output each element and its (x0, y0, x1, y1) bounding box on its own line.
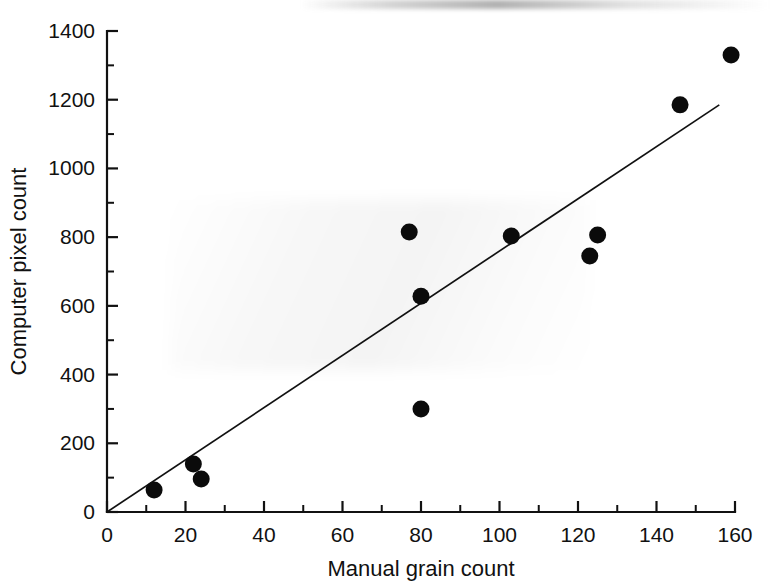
data-point (413, 288, 430, 305)
y-tick-label-600: 600 (60, 294, 95, 317)
data-point (401, 223, 418, 240)
x-tick-label-100: 100 (482, 523, 517, 546)
regression-line (107, 105, 719, 512)
y-tick-label-1200: 1200 (48, 88, 95, 111)
y-tick-label-0: 0 (83, 500, 95, 523)
data-point (193, 471, 210, 488)
data-point (672, 96, 689, 113)
x-axis-title: Manual grain count (327, 556, 514, 581)
y-tick-label-400: 400 (60, 363, 95, 386)
data-point (185, 455, 202, 472)
x-tick-label-40: 40 (252, 523, 275, 546)
x-tick-label-0: 0 (101, 523, 113, 546)
data-point (413, 400, 430, 417)
y-tick-label-1000: 1000 (48, 156, 95, 179)
y-tick-label-800: 800 (60, 225, 95, 248)
data-point (723, 47, 740, 64)
x-tick-label-120: 120 (560, 523, 595, 546)
data-point (581, 248, 598, 265)
x-axis-tick-labels: 020406080100120140160 (101, 523, 752, 546)
x-tick-label-60: 60 (331, 523, 354, 546)
y-axis-tick-labels: 0200400600800100012001400 (48, 19, 95, 523)
y-tick-label-200: 200 (60, 431, 95, 454)
data-point (503, 228, 520, 245)
figure-container: 0200400600800100012001400 02040608010012… (0, 0, 775, 582)
x-tick-label-80: 80 (409, 523, 432, 546)
x-tick-label-160: 160 (717, 523, 752, 546)
scatter-plot: 0200400600800100012001400 02040608010012… (0, 0, 775, 582)
x-axis-major-ticks (107, 501, 735, 512)
x-tick-label-140: 140 (639, 523, 674, 546)
data-point (146, 482, 163, 499)
y-axis-title: Computer pixel count (6, 168, 31, 376)
x-tick-label-20: 20 (174, 523, 197, 546)
data-points (146, 47, 740, 499)
y-tick-label-1400: 1400 (48, 19, 95, 42)
data-point (589, 227, 606, 244)
